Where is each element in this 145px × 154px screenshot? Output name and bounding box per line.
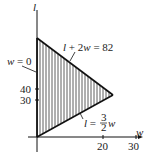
x-axis-label: w xyxy=(136,126,144,138)
y-axis-label: l xyxy=(33,1,36,13)
annotation-ratio-constraint: l = 3 2 w xyxy=(84,111,116,133)
x-tick-label-20: 20 xyxy=(97,140,109,152)
y-tick-label-30: 30 xyxy=(20,94,32,106)
feasible-region-chart: l w 40 30 20 30 w = 0 l + 2w = 82 l = 3 … xyxy=(0,0,145,154)
leader-ratio-constraint xyxy=(80,113,83,119)
annotation-sum-constraint: l + 2w = 82 xyxy=(63,41,113,53)
x-tick-label-30: 30 xyxy=(128,140,140,152)
leader-sum-constraint xyxy=(70,52,75,61)
svg-text:2: 2 xyxy=(101,121,107,133)
svg-text:w: w xyxy=(108,117,116,129)
annotation-w-equals-0: w = 0 xyxy=(7,55,32,67)
svg-text:l =: l = xyxy=(84,117,96,129)
